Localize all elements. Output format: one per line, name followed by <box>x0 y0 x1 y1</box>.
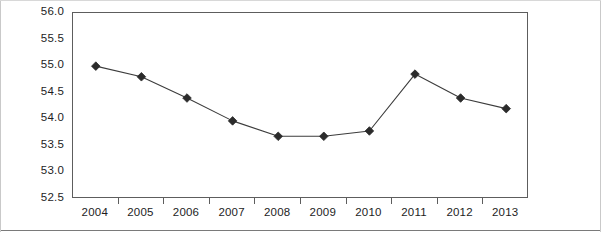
y-axis-tick-label: 54.0 <box>8 111 64 123</box>
data-point-2007 <box>228 117 237 126</box>
x-axis-tick-label: 2006 <box>156 206 216 218</box>
x-axis-tick-label: 2005 <box>110 206 170 218</box>
data-point-2008 <box>274 132 283 141</box>
x-axis-tick-label: 2011 <box>384 206 444 218</box>
y-axis-tick-label: 53.5 <box>8 138 64 150</box>
x-axis-tick-label: 2004 <box>65 206 125 218</box>
data-point-2009 <box>320 132 329 141</box>
data-point-2006 <box>183 94 192 103</box>
x-axis-tick-label: 2012 <box>430 206 490 218</box>
data-point-2013 <box>502 104 511 113</box>
line-series <box>73 13 529 199</box>
x-axis-tick-label: 2009 <box>293 206 353 218</box>
figure-border-left <box>0 0 1 232</box>
y-axis-tick-label: 53.0 <box>8 164 64 176</box>
series-line <box>96 66 506 136</box>
data-point-2012 <box>456 94 465 103</box>
chart-page: 56.055.555.054.554.053.553.052.5 2004200… <box>0 0 602 241</box>
x-axis-tick-label: 2008 <box>247 206 307 218</box>
y-axis-tick-label: 54.5 <box>8 85 64 97</box>
plot-area <box>72 12 528 198</box>
y-axis-tick-label: 56.0 <box>8 5 64 17</box>
x-axis-tick-label: 2007 <box>202 206 262 218</box>
figure-border-right <box>600 0 601 232</box>
figure-border-top <box>0 0 601 1</box>
data-point-2004 <box>92 62 101 71</box>
y-axis-tick-label: 55.5 <box>8 32 64 44</box>
data-point-2005 <box>137 72 146 81</box>
x-axis-tick-label: 2010 <box>338 206 398 218</box>
x-axis-tick-label: 2013 <box>475 206 535 218</box>
y-axis-tick-label: 52.5 <box>8 191 64 203</box>
y-axis-tick-label: 55.0 <box>8 58 64 70</box>
